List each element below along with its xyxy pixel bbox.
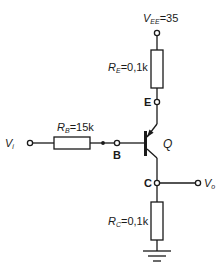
- vo-terminal: [195, 180, 200, 185]
- collector-node: [154, 180, 159, 185]
- ground-icon: [143, 251, 171, 261]
- vee-label: VEE=35: [143, 12, 178, 25]
- circuit-diagram: VEE=35 RE=0,1k E Q Vi RB=15k B C Vo RC=0…: [0, 0, 224, 279]
- re-label: RE=0,1k: [108, 61, 148, 74]
- collector-label: C: [144, 177, 152, 189]
- rb-label: RB=15k: [57, 121, 94, 134]
- resistor-rb: [54, 137, 90, 149]
- base-label: B: [113, 149, 121, 161]
- emitter-node: [154, 99, 159, 104]
- vo-label: Vo: [204, 177, 215, 190]
- emitter-label: E: [144, 96, 151, 108]
- junction-dot: [101, 141, 105, 145]
- transistor-label: Q: [163, 137, 172, 151]
- vi-terminal: [27, 140, 32, 145]
- vi-label: Vi: [5, 137, 14, 150]
- transistor-q: Q: [146, 124, 173, 158]
- collector-lead: [147, 149, 157, 158]
- vee-terminal: [154, 30, 159, 35]
- resistor-rc: [151, 202, 163, 240]
- base-node: [114, 140, 119, 145]
- resistor-re: [151, 50, 163, 88]
- rc-label: RC=0,1k: [108, 215, 149, 228]
